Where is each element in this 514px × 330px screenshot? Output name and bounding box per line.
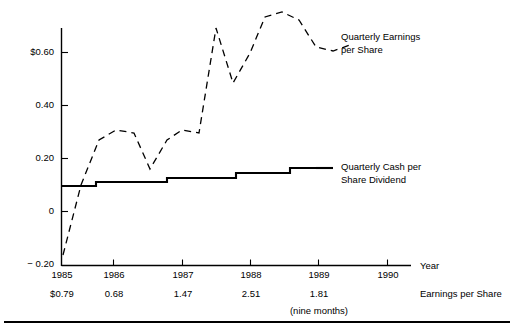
eps-value-1988: 2.51 [226, 288, 276, 300]
legend-label-quarterly-earnings-line2: per Share [341, 44, 383, 57]
x-tick-label-1986: 1986 [89, 269, 139, 281]
eps-value-1985: $0.79 [37, 288, 87, 300]
y-tick-marks [62, 53, 69, 212]
x-tick-label-1990: 1990 [363, 269, 413, 281]
eps-axis-name: Earnings per Share [420, 288, 502, 300]
y-tick-label-020: 0.20 [6, 152, 54, 164]
y-tick-label-0: 0 [6, 205, 54, 217]
chart-figure: $0.60 0.40 0.20 0 − 0.20 1985 1986 1987 … [0, 0, 514, 330]
legend-label-quarterly-dividend-line1: Quarterly Cash per [341, 161, 421, 174]
x-tick-marks [114, 260, 388, 266]
eps-value-1987: 1.47 [158, 288, 208, 300]
x-tick-label-1989: 1989 [294, 269, 344, 281]
y-tick-label-040: 0.40 [6, 99, 54, 111]
legend-label-quarterly-dividend-line2: Share Dividend [341, 174, 406, 187]
series-quarterly-earnings-line [63, 12, 350, 255]
x-axis-name-year: Year [420, 260, 439, 272]
eps-value-1989: 1.81 [294, 288, 344, 300]
series-quarterly-dividend-step [61, 168, 316, 186]
x-tick-label-1985: 1985 [37, 269, 87, 281]
x-tick-label-1987: 1987 [158, 269, 208, 281]
y-tick-label-060: $0.60 [6, 46, 54, 58]
nine-months-note: (nine months) [274, 305, 364, 317]
legend-label-quarterly-earnings-line1: Quarterly Earnings [341, 31, 420, 44]
eps-value-1986: 0.68 [89, 288, 139, 300]
x-tick-label-1988: 1988 [226, 269, 276, 281]
